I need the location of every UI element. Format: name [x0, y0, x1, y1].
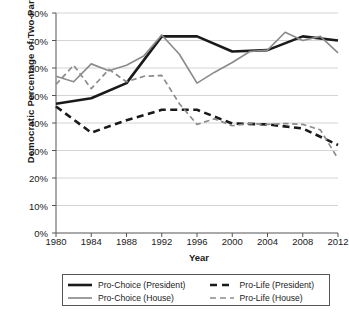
legend-item-pro-life-house[interactable]: Pro-Life (House)	[209, 291, 325, 304]
x-tick-label: 1988	[116, 236, 137, 247]
legend-row: Pro-Choice (House) Pro-Life (House)	[67, 291, 325, 304]
x-axis-title: Year	[56, 252, 342, 263]
legend-label: Pro-Life (President)	[240, 280, 315, 290]
legend-label: Pro-Life (House)	[240, 293, 303, 303]
x-tick-label: 1992	[151, 236, 172, 247]
legend-swatch-dashed-gray	[209, 293, 235, 303]
legend-label: Pro-Choice (House)	[98, 293, 174, 303]
legend-swatch-solid-black	[67, 280, 93, 290]
plot-area	[0, 0, 345, 240]
chart-legend: Pro-Choice (President) Pro-Life (Preside…	[62, 274, 330, 306]
legend-row: Pro-Choice (President) Pro-Life (Preside…	[67, 278, 325, 291]
x-tick-label: 1980	[45, 236, 66, 247]
x-tick-label: 2012	[327, 236, 348, 247]
legend-item-pro-choice-president[interactable]: Pro-Choice (President)	[67, 278, 209, 291]
x-tick-label: 2000	[222, 236, 243, 247]
x-tick-label: 1996	[186, 236, 207, 247]
legend-swatch-dashed-black	[209, 280, 235, 290]
series-line	[56, 107, 338, 146]
series-line	[56, 36, 338, 103]
x-tick-label: 1984	[81, 236, 102, 247]
legend-item-pro-choice-house[interactable]: Pro-Choice (House)	[67, 291, 209, 304]
x-axis-ticks	[52, 13, 338, 237]
series-line	[56, 65, 338, 159]
legend-swatch-solid-gray	[67, 293, 93, 303]
legend-label: Pro-Choice (President)	[98, 280, 185, 290]
x-tick-label: 2008	[292, 236, 313, 247]
x-tick-label: 2004	[257, 236, 278, 247]
legend-item-pro-life-president[interactable]: Pro-Life (President)	[209, 278, 325, 291]
